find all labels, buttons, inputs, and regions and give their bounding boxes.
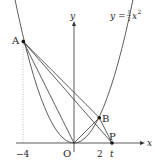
segment-OB — [74, 118, 99, 143]
tick-neg4: −4 — [16, 149, 30, 159]
svg-text:2: 2 — [128, 16, 131, 22]
tick-t: t — [110, 149, 114, 159]
svg-text:2: 2 — [138, 8, 142, 15]
y-axis-arrow-icon — [72, 21, 76, 26]
svg-text:=: = — [118, 11, 126, 21]
tick-2: 2 — [97, 149, 103, 159]
svg-text:1: 1 — [128, 9, 131, 15]
curve-equation-label: y = 1 2 x 2 — [109, 8, 142, 22]
svg-text:x: x — [132, 11, 137, 21]
x-axis-arrow-icon — [140, 141, 145, 145]
point-B — [98, 116, 102, 120]
parabola-diagram: A B P O x y −4 2 t y = 1 2 x 2 — [0, 0, 157, 165]
label-y-axis: y — [69, 11, 76, 21]
segment-AO — [23, 42, 74, 143]
point-A — [22, 40, 26, 44]
svg-text:y: y — [109, 11, 116, 21]
label-A: A — [11, 35, 20, 46]
label-origin: O — [63, 148, 71, 159]
label-B: B — [102, 113, 109, 124]
segment-AP — [23, 42, 112, 143]
label-P: P — [109, 131, 116, 142]
label-x-axis: x — [147, 138, 152, 148]
